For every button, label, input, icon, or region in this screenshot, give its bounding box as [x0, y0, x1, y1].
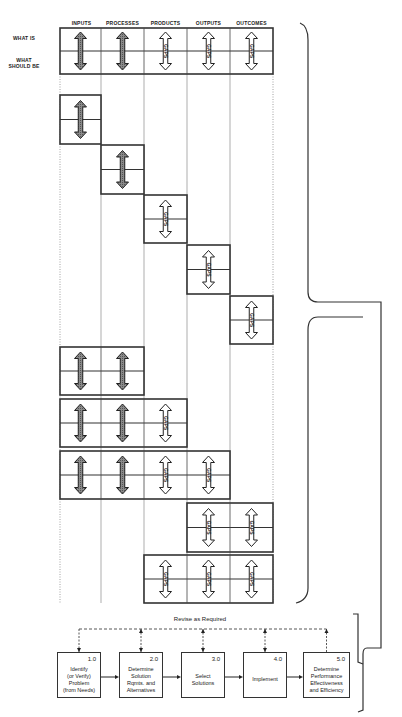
svg-text:GAPS: GAPS — [206, 572, 212, 587]
matrix-row-outputs-only: GAPS — [187, 245, 230, 294]
bracket-inner — [296, 317, 363, 603]
step-text: Determine Solution Rqmts. and Alternativ… — [122, 665, 160, 694]
step-text: Implement — [246, 665, 284, 694]
matrix-row-outputs-outcomes: GAPSGAPS — [187, 503, 273, 552]
bracket-small — [353, 614, 363, 664]
process-step-4-0: 4.0Implement — [243, 652, 287, 698]
svg-text:GAPS: GAPS — [163, 572, 169, 587]
gap-analysis-diagram: GAPSGAPSGAPSGAPSGAPSGAPSGAPSGAPSGAPSGAPS… — [0, 0, 402, 717]
step-number: 4.0 — [274, 656, 282, 662]
feedback-label: Revise as Required — [135, 616, 265, 622]
bracket-top — [300, 23, 381, 712]
process-step-2-0: 2.0Determine Solution Rqmts. and Alterna… — [119, 652, 163, 698]
column-header-outcomes: OUTCOMES — [230, 20, 273, 26]
step-text: Select Solutions — [184, 665, 222, 694]
gap-matrix: GAPSGAPSGAPSGAPSGAPSGAPSGAPSGAPSGAPSGAPS… — [60, 28, 273, 603]
svg-text:GAPS: GAPS — [163, 468, 169, 483]
matrix-row-inputs-processes — [60, 347, 144, 395]
matrix-row-products-to-outcomes: GAPSGAPSGAPS — [144, 555, 273, 603]
matrix-row-inputs-to-outputs: GAPSGAPS — [60, 451, 230, 499]
matrix-row-inputs-only — [60, 95, 101, 144]
matrix-row-outcomes-only: GAPS — [230, 296, 273, 344]
matrix-row-products-only: GAPS — [144, 195, 187, 243]
column-header-outputs: OUTPUTS — [187, 20, 230, 26]
svg-text:GAPS: GAPS — [249, 572, 255, 587]
svg-text:GAPS: GAPS — [206, 44, 212, 59]
svg-text:GAPS: GAPS — [206, 520, 212, 535]
row-label-what-should-be: WHAT SHOULD BE — [4, 57, 44, 69]
svg-text:GAPS: GAPS — [163, 416, 169, 431]
step-number: 3.0 — [212, 656, 220, 662]
step-text: Determine Performance Effectiveness and … — [306, 665, 347, 694]
step-number: 5.0 — [337, 656, 345, 662]
matrix-row-inputs-to-products: GAPS — [60, 399, 187, 447]
process-step-3-0: 3.0Select Solutions — [181, 652, 225, 698]
column-header-processes: PROCESSES — [101, 20, 144, 26]
row-label-what-is: WHAT IS — [4, 35, 44, 41]
svg-text:GAPS: GAPS — [163, 44, 169, 59]
step-number: 1.0 — [88, 656, 96, 662]
process-step-5-0: 5.0Determine Performance Effectiveness a… — [303, 652, 350, 698]
right-brackets — [296, 23, 381, 712]
step-number: 2.0 — [150, 656, 158, 662]
step-text: Identify (or Verify) Problem (from Needs… — [60, 665, 98, 694]
matrix-row-full-matrix: GAPSGAPSGAPS — [60, 28, 273, 74]
process-step-1-0: 1.0Identify (or Verify) Problem (from Ne… — [57, 652, 101, 698]
column-header-products: PRODUCTS — [144, 20, 187, 26]
matrix-row-processes-only — [101, 145, 144, 194]
svg-text:GAPS: GAPS — [249, 520, 255, 535]
svg-text:GAPS: GAPS — [163, 212, 169, 227]
column-header-inputs: INPUTS — [60, 20, 103, 26]
svg-text:GAPS: GAPS — [206, 262, 212, 277]
svg-text:GAPS: GAPS — [249, 313, 255, 328]
svg-text:GAPS: GAPS — [249, 44, 255, 59]
svg-text:GAPS: GAPS — [206, 468, 212, 483]
